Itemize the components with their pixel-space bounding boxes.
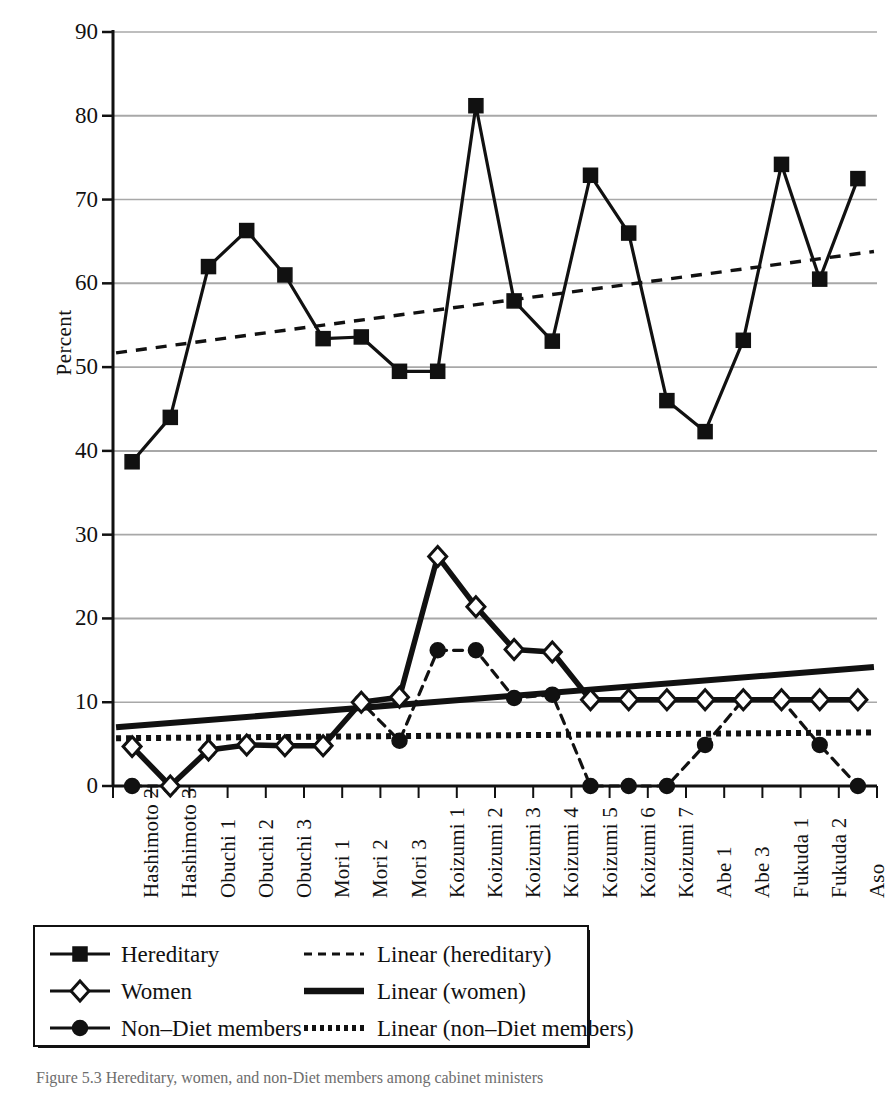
y-tick-label: 50: [44, 355, 98, 378]
y-tick-label: 40: [44, 439, 98, 462]
y-tick-label: 80: [44, 104, 98, 127]
figure-caption: Figure 5.3 Hereditary, women, and non-Di…: [36, 1068, 876, 1088]
x-tick-label: Koizumi 3: [523, 807, 544, 898]
x-tick-label: Koizumi 7: [676, 807, 697, 898]
dashed-line-sample: [303, 943, 365, 965]
legend-label: Linear (women): [377, 980, 526, 1003]
data-point-marker: [812, 737, 827, 752]
legend-row: HereditaryLinear (hereditary): [35, 935, 587, 973]
data-point-marker: [696, 690, 714, 710]
y-tick-label: 60: [44, 271, 98, 294]
data-point-marker: [851, 172, 865, 186]
data-point-marker: [431, 364, 445, 378]
data-point-marker: [775, 157, 789, 171]
y-tick-label: 10: [44, 690, 98, 713]
data-point-marker: [545, 687, 560, 702]
data-point-marker: [773, 690, 791, 710]
gridlines-group: [113, 32, 877, 702]
filled-circle-marker: [49, 1017, 111, 1039]
legend-entry-trendline[interactable]: Linear (non–Diet members): [303, 1017, 634, 1040]
data-point-marker: [354, 330, 368, 344]
data-point-marker: [698, 737, 713, 752]
data-point-marker: [125, 455, 139, 469]
x-tick-label: Koizumi 1: [447, 807, 468, 898]
data-point-marker: [507, 294, 521, 308]
thick-solid-line-sample: [303, 980, 365, 1002]
x-tick-label: Hashimoto 3: [179, 788, 200, 898]
x-tick-label: Fukuda 1: [791, 818, 812, 898]
data-point-marker: [698, 425, 712, 439]
data-point-marker: [392, 733, 407, 748]
x-tick-label: Abe 1: [714, 846, 735, 898]
trendline-non-diet-members: [116, 732, 874, 738]
series-women: [123, 546, 867, 796]
figure-container: Percent 0102030405060708090 Hashimoto 2H…: [0, 0, 893, 1096]
legend-row: Non–Diet membersLinear (non–Diet members…: [35, 1009, 587, 1047]
data-point-marker: [469, 99, 483, 113]
data-point-marker: [658, 690, 676, 710]
data-point-marker: [240, 224, 254, 238]
y-axis-ticks-group: [102, 32, 113, 786]
data-point-marker: [468, 643, 483, 658]
y-tick-label: 90: [44, 20, 98, 43]
legend-label: Linear (non–Diet members): [377, 1017, 634, 1040]
data-point-marker: [811, 690, 829, 710]
x-tick-label: Koizumi 2: [485, 807, 506, 898]
data-point-marker: [849, 690, 867, 710]
line-chart-svg: [0, 0, 893, 800]
x-tick-label: Aso: [867, 864, 888, 898]
open-diamond-marker: [49, 980, 111, 1002]
data-point-marker: [620, 690, 638, 710]
legend-label: Linear (hereditary): [377, 943, 551, 966]
data-point-marker: [507, 691, 522, 706]
y-tick-label: 70: [44, 188, 98, 211]
x-tick-label: Mori 3: [409, 839, 430, 898]
x-axis-tick-labels: Hashimoto 2Hashimoto 3Obuchi 1Obuchi 2Ob…: [0, 786, 893, 906]
legend-entry-series[interactable]: Non–Diet members: [49, 1017, 302, 1040]
x-tick-label: Mori 1: [332, 839, 353, 898]
data-point-marker: [278, 268, 292, 282]
dotted-line-sample: [303, 1017, 365, 1039]
data-point-marker: [316, 332, 330, 346]
x-tick-label: Abe 3: [752, 846, 773, 898]
x-tick-label: Mori 2: [370, 839, 391, 898]
legend-label: Hereditary: [121, 943, 219, 966]
x-tick-label: Fukuda 2: [829, 818, 850, 898]
filled-square-marker: [49, 943, 111, 965]
chart-plot-area: Percent 0102030405060708090: [0, 0, 893, 800]
chart-legend: HereditaryLinear (hereditary)WomenLinear…: [33, 925, 589, 1047]
x-tick-label: Koizumi 5: [600, 807, 621, 898]
x-tick-label: Obuchi 1: [218, 819, 239, 898]
legend-entry-series[interactable]: Hereditary: [49, 943, 219, 966]
data-point-marker: [202, 260, 216, 274]
y-tick-label: 20: [44, 606, 98, 629]
data-point-marker: [393, 364, 407, 378]
data-point-marker: [813, 272, 827, 286]
data-point-marker: [736, 333, 750, 347]
legend-entry-series[interactable]: Women: [49, 980, 192, 1003]
legend-row: WomenLinear (women): [35, 972, 587, 1010]
trendline-segment: [116, 732, 874, 738]
legend-entry-trendline[interactable]: Linear (women): [303, 980, 526, 1003]
data-point-marker: [660, 394, 674, 408]
legend-entry-trendline[interactable]: Linear (hereditary): [303, 943, 551, 966]
data-point-marker: [430, 643, 445, 658]
data-point-marker: [545, 334, 559, 348]
legend-label: Women: [121, 980, 192, 1003]
x-tick-label: Koizumi 4: [561, 807, 582, 898]
data-point-marker: [584, 168, 598, 182]
x-tick-label: Obuchi 2: [256, 819, 277, 898]
x-tick-label: Obuchi 3: [294, 819, 315, 898]
y-tick-label: 30: [44, 523, 98, 546]
data-point-marker: [622, 226, 636, 240]
legend-label: Non–Diet members: [121, 1017, 302, 1040]
data-point-marker: [163, 410, 177, 424]
x-tick-label: Hashimoto 2: [141, 788, 162, 898]
x-tick-label: Koizumi 6: [638, 807, 659, 898]
series-line: [132, 556, 858, 786]
